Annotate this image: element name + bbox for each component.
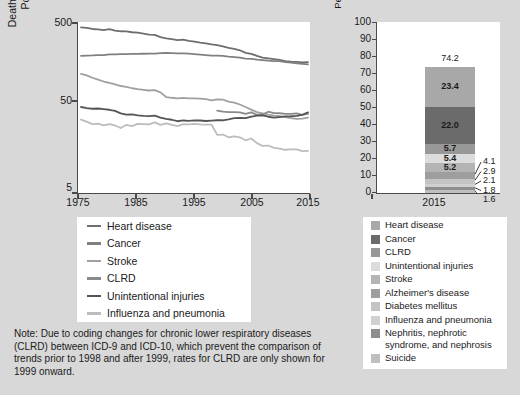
line-series-stroke xyxy=(81,74,308,119)
line-series-influenza-and-pneumonia xyxy=(81,120,308,152)
right-y-tick-90: 90 xyxy=(347,33,371,44)
callout-line-diabetes-mellitus xyxy=(475,172,481,181)
legend-item-label: Unintentional injuries xyxy=(107,290,204,302)
legend-item-cancer[interactable]: Cancer xyxy=(77,235,251,253)
callout-value-label: 1.8 xyxy=(483,185,496,195)
bar-segment-value-label: 22.0 xyxy=(425,120,475,130)
legend-item-heart-disease[interactable]: Heart disease xyxy=(77,217,251,235)
legend-line-swatch xyxy=(87,277,101,280)
right-y-tick-30: 30 xyxy=(347,135,371,146)
bar-legend-item-diabetes-mellitus[interactable]: Diabetes mellitus xyxy=(363,300,507,312)
right-y-tick-100: 100 xyxy=(347,16,371,27)
bar-legend-item-label: Nephritis, nephrotic xyxy=(385,327,467,339)
right-x-tickmark-2015 xyxy=(371,194,373,199)
callout-value-label: 4.1 xyxy=(483,156,496,166)
line-chart-plot-area xyxy=(77,22,310,194)
bar-segment-stroke[interactable]: 5.2 xyxy=(425,163,475,172)
right-y-tick-80: 80 xyxy=(347,50,371,61)
left-x-tick-1975: 1975 xyxy=(56,196,100,208)
left-x-tick-2015: 2015 xyxy=(286,196,330,208)
line-series-group xyxy=(78,22,311,194)
bar-legend-swatch xyxy=(371,289,380,298)
bar-legend-item-label: Unintentional injuries xyxy=(385,260,473,272)
bar-total-label: 74.2 xyxy=(425,53,475,63)
bar-chart-legend: Heart diseaseCancerCLRDUnintentional inj… xyxy=(363,217,507,369)
right-figure-panel: Percent of Total Number of Deaths 100908… xyxy=(341,10,507,385)
left-y-tick-50: 50 xyxy=(32,94,72,106)
bar-chart-plot-area: 23.422.05.75.45.2 4.12.92.11.81.6 74.2 xyxy=(376,22,500,194)
legend-item-unintentional-injuries[interactable]: Unintentional injuries xyxy=(77,287,251,305)
bar-segment-alzheimer-s-disease[interactable] xyxy=(425,172,475,179)
bar-legend-item-unintentional-injuries[interactable]: Unintentional injuries xyxy=(363,260,507,272)
bar-legend-item-alzheimer-s-disease[interactable]: Alzheimer's disease xyxy=(363,287,507,299)
legend-item-stroke[interactable]: Stroke xyxy=(77,252,251,270)
callout-value-label: 1.6 xyxy=(483,194,496,204)
bar-legend-item-cancer[interactable]: Cancer xyxy=(363,233,507,245)
right-x-tick-2015: 2015 xyxy=(404,196,464,208)
legend-line-swatch xyxy=(87,225,101,228)
right-y-axis-label: Percent of Total Number of Deaths xyxy=(332,0,343,22)
bar-legend-item-label: Influenza and pneumonia xyxy=(385,314,492,326)
left-y-tick-500: 500 xyxy=(32,16,72,28)
legend-line-swatch xyxy=(87,295,101,298)
line-chart: Deaths per 100,000 Resident Population (… xyxy=(14,10,327,207)
left-figure-panel: Deaths per 100,000 Resident Population (… xyxy=(14,10,327,385)
bar-legend-item-label: Cancer xyxy=(385,233,416,245)
legend-item-clrd[interactable]: CLRD xyxy=(77,270,251,288)
bar-legend-swatch xyxy=(371,329,380,338)
bar-legend-swatch xyxy=(371,275,380,284)
bar-legend-item-heart-disease[interactable]: Heart disease xyxy=(363,219,507,231)
left-x-tick-1995: 1995 xyxy=(172,196,216,208)
right-y-tick-20: 20 xyxy=(347,152,371,163)
bar-segment-value-label: 23.4 xyxy=(425,81,475,91)
right-y-tick-10: 10 xyxy=(347,169,371,180)
bar-legend-item-stroke[interactable]: Stroke xyxy=(363,273,507,285)
line-series-heart-disease xyxy=(81,27,308,62)
stacked-bar-chart: Percent of Total Number of Deaths 100908… xyxy=(341,10,507,207)
legend-line-swatch xyxy=(87,260,101,263)
right-y-tick-60: 60 xyxy=(347,84,371,95)
legend-item-label: Cancer xyxy=(107,237,141,249)
bar-legend-swatch xyxy=(371,235,380,244)
right-y-tick-0: 0 xyxy=(347,186,371,197)
bar-segment-heart-disease[interactable]: 23.4 xyxy=(425,67,475,107)
bar-legend-swatch xyxy=(371,302,380,311)
line-chart-legend: Heart diseaseCancerStrokeCLRDUnintention… xyxy=(77,217,251,322)
left-y-tick-5: 5 xyxy=(32,181,72,193)
bar-legend-swatch xyxy=(371,221,380,230)
bar-legend-item-label: Suicide xyxy=(385,352,416,364)
bar-legend-swatch xyxy=(371,354,380,363)
bar-legend-item-clrd[interactable]: CLRD xyxy=(363,246,507,258)
bar-legend-item-suicide[interactable]: Suicide xyxy=(363,352,507,364)
bar-legend-item-label: CLRD xyxy=(385,246,411,258)
stacked-bar[interactable]: 23.422.05.75.45.2 xyxy=(425,67,475,193)
legend-line-swatch xyxy=(87,242,101,245)
legend-item-label: Stroke xyxy=(107,255,137,267)
bar-segment-value-label: 5.2 xyxy=(425,162,475,172)
legend-item-influenza-and-pneumonia[interactable]: Influenza and pneumonia xyxy=(77,305,251,323)
right-y-tick-40: 40 xyxy=(347,118,371,129)
bar-legend-item-label: Diabetes mellitus xyxy=(385,300,457,312)
line-series-unintentional-injuries xyxy=(81,107,308,121)
left-y-axis-label: Deaths per 100,000 Resident Population (… xyxy=(6,0,32,34)
bar-segment-cancer[interactable]: 22.0 xyxy=(425,107,475,144)
bar-legend-item-label: Stroke xyxy=(385,273,412,285)
bar-legend-item-influenza-and-pneumonia[interactable]: Influenza and pneumonia xyxy=(363,314,507,326)
bar-legend-swatch xyxy=(371,316,380,325)
callout-line-influenza-and-pneumonia xyxy=(475,181,481,184)
bar-legend-item-nephritis-nephrotic[interactable]: Nephritis, nephrotic xyxy=(363,327,507,339)
callout-value-label: 2.1 xyxy=(483,175,496,185)
legend-item-label: CLRD xyxy=(107,272,136,284)
callout-line-suicide xyxy=(475,191,481,194)
callout-value-label: 2.9 xyxy=(483,166,496,176)
callout-line-alzheimer-s-disease xyxy=(475,162,481,174)
bar-legend-swatch xyxy=(371,248,380,257)
figure-note: Note: Due to coding changes for chronic … xyxy=(14,328,327,378)
bar-legend-item-label: Heart disease xyxy=(385,219,444,231)
bar-legend-item-label: Alzheimer's disease xyxy=(385,287,469,299)
bar-segment-suicide[interactable] xyxy=(425,190,475,193)
bar-legend-item-label-cont: syndrome, and nephrosis xyxy=(363,339,507,351)
callout-line-nephritis-nephrotic-syndrome-and-nephrosis xyxy=(475,188,481,191)
legend-item-label: Heart disease xyxy=(107,220,172,232)
right-y-tick-70: 70 xyxy=(347,67,371,78)
